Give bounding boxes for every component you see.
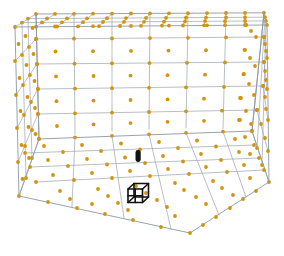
agent-capsule-marker[interactable] [136, 150, 141, 162]
scene-canvas[interactable] [0, 0, 284, 256]
ceiling-grid [13, 11, 269, 29]
back-wall-grid [34, 13, 266, 141]
viewport-3d-scene[interactable] [0, 0, 284, 256]
